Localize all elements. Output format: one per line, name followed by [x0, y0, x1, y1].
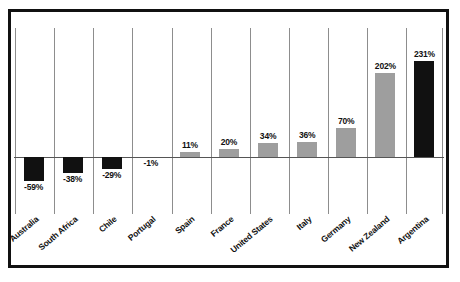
bar-italy[interactable] — [297, 142, 317, 157]
category-label-portugal: Portugal — [126, 214, 158, 243]
category-label-spain: Spain — [173, 214, 196, 236]
bar-slot: -29% — [92, 19, 131, 211]
category-label-slot: United States — [249, 212, 288, 268]
category-label-italy: Italy — [295, 214, 314, 232]
bar-value-label: 20% — [221, 137, 237, 147]
bar-slot: 231% — [405, 19, 444, 211]
bar-argentina[interactable] — [414, 61, 434, 157]
category-label-france: France — [209, 214, 236, 239]
bar-value-label: 231% — [414, 49, 435, 59]
bar-australia[interactable] — [24, 157, 44, 181]
bar-value-label: -29% — [102, 170, 121, 180]
category-label-slot: Chile — [92, 212, 131, 268]
bar-value-label: -1% — [144, 158, 159, 168]
bar-slot: 70% — [327, 19, 366, 211]
bar-slot: -1% — [131, 19, 170, 211]
bar-slot: 11% — [170, 19, 209, 211]
bar-spain[interactable] — [180, 152, 200, 157]
category-label-slot: Portugal — [131, 212, 170, 268]
bar-slot: 36% — [288, 19, 327, 211]
bar-germany[interactable] — [336, 128, 356, 157]
bar-slot: 34% — [249, 19, 288, 211]
bar-value-label: 202% — [375, 61, 396, 71]
bar-slot: -59% — [14, 19, 53, 211]
chart-figure: -59%-38%-29%-1%11%20%34%36%70%202%231% A… — [0, 0, 460, 282]
bar-value-label: 70% — [338, 116, 354, 126]
bar-slot: 202% — [366, 19, 405, 211]
bar-slot: 20% — [209, 19, 248, 211]
plot-area: -59%-38%-29%-1%11%20%34%36%70%202%231% — [14, 19, 444, 211]
bar-value-label: 36% — [299, 130, 315, 140]
bar-value-label: -38% — [63, 174, 82, 184]
bar-slot: -38% — [53, 19, 92, 211]
bar-new-zealand[interactable] — [375, 73, 395, 157]
bar-value-label: -59% — [24, 182, 43, 192]
bar-chile[interactable] — [102, 157, 122, 169]
bar-value-label: 11% — [182, 140, 198, 150]
bar-value-label: 34% — [260, 131, 276, 141]
category-label-slot: Argentina — [405, 212, 444, 268]
bar-south-africa[interactable] — [63, 157, 83, 173]
bar-france[interactable] — [219, 149, 239, 157]
category-labels-group: AustraliaSouth AfricaChilePortugalSpainF… — [14, 212, 444, 268]
category-label-slot: Spain — [170, 212, 209, 268]
category-label-slot: South Africa — [53, 212, 92, 268]
bar-united-states[interactable] — [258, 143, 278, 157]
category-label-chile: Chile — [97, 214, 119, 234]
